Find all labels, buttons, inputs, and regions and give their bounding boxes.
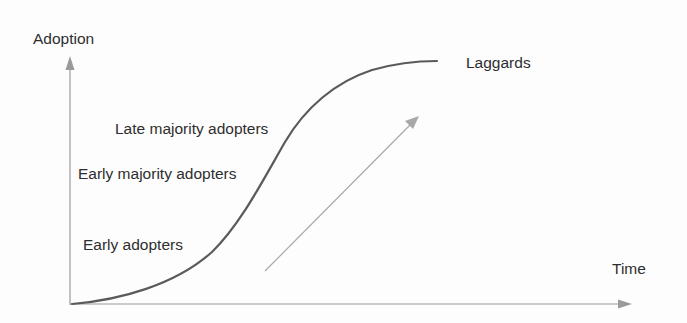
y-axis-arrowhead-icon: [66, 56, 75, 70]
y-axis-label: Adoption: [33, 31, 94, 47]
y-axis: [66, 56, 75, 305]
x-axis-arrowhead-icon: [618, 300, 632, 309]
stage-label-early-majority: Early majority adopters: [78, 166, 237, 182]
stage-label-late-majority: Late majority adopters: [115, 121, 268, 137]
x-axis-label: Time: [612, 261, 646, 277]
stage-label-early-adopters: Early adopters: [83, 237, 183, 253]
trend-arrow: [265, 116, 419, 271]
diagram-canvas: [0, 0, 687, 323]
stage-label-laggards: Laggards: [466, 55, 531, 71]
adoption-curve-diagram: Adoption Time Laggards Late majority ado…: [0, 0, 687, 323]
x-axis: [70, 300, 632, 309]
trend-arrowhead-icon: [405, 116, 419, 129]
s-curve: [72, 61, 437, 304]
